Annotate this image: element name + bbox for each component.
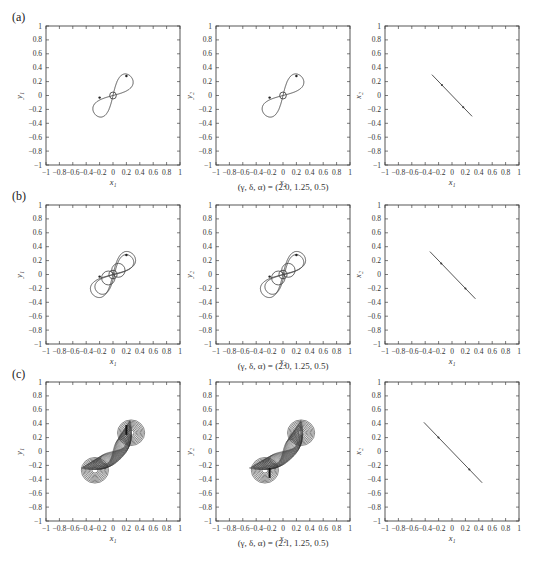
y-tick-label: 0.4 xyxy=(33,63,43,72)
y-tick-label: 0.4 xyxy=(203,63,213,72)
y-tick-label: 0.8 xyxy=(33,35,43,44)
y-tick-label: −0.2 xyxy=(367,461,381,470)
y-tick-label: −0.6 xyxy=(367,133,381,142)
x-tick-label: 0 xyxy=(281,524,285,533)
plot-b-1: −1−1−0.8−0.8−0.6−0.6−0.4−0.4−0.2−0.2000.… xyxy=(14,201,182,367)
y-axis-label: y₁ xyxy=(14,271,24,279)
x-tick-label: 0.2 xyxy=(122,347,132,356)
y-tick-label: −0.6 xyxy=(198,312,212,321)
y-tick-label: −1 xyxy=(34,340,42,349)
y-tick-label: 0.4 xyxy=(372,419,382,428)
y-tick-label: −0.4 xyxy=(28,119,42,128)
x-tick-label: −0.8 xyxy=(392,168,406,177)
y-tick-label: 0.8 xyxy=(203,391,213,400)
y-tick-label: −0.6 xyxy=(198,133,212,142)
y-tick-label: 0.2 xyxy=(203,433,213,442)
x-tick-label: −0.6 xyxy=(66,347,80,356)
x-tick-label: −1 xyxy=(42,347,50,356)
x-tick-label: 0.2 xyxy=(461,347,471,356)
y-tick-label: 0.8 xyxy=(33,391,43,400)
plot-b-2: −1−1−0.8−0.8−0.6−0.6−0.4−0.4−0.2−0.2000.… xyxy=(184,201,352,367)
x-tick-label: 0 xyxy=(111,524,115,533)
x-tick-label: 0.4 xyxy=(474,347,484,356)
x-tick-label: 0.6 xyxy=(149,347,159,356)
x-tick-label: −0.4 xyxy=(79,168,93,177)
x-tick-label: 0.6 xyxy=(488,347,498,356)
figure: (a) (b) (c) (γ, δ, α) = (2.0, 1.25, 0.5)… xyxy=(0,0,538,568)
x-tick-label: 1 xyxy=(517,168,521,177)
x-tick-label: 0.8 xyxy=(162,168,172,177)
x-tick-label: 0.8 xyxy=(332,524,342,533)
y-tick-label: 0.4 xyxy=(203,242,213,251)
x-tick-label: −0.2 xyxy=(263,524,277,533)
y-tick-label: −1 xyxy=(204,161,212,170)
x-tick-label: −0.8 xyxy=(392,347,406,356)
x-tick-label: −1 xyxy=(212,524,220,533)
x-tick-label: 0.4 xyxy=(474,524,484,533)
y-tick-label: 0.6 xyxy=(203,228,213,237)
x-tick-label: −0.6 xyxy=(236,347,250,356)
plot-b-3: −1−1−0.8−0.8−0.6−0.6−0.4−0.4−0.2−0.2000.… xyxy=(353,201,521,367)
x-tick-label: −0.6 xyxy=(405,168,419,177)
y-tick-label: −0.6 xyxy=(28,133,42,142)
y-tick-label: 0 xyxy=(208,91,212,100)
x-tick-label: 0.2 xyxy=(122,524,132,533)
y-tick-label: 0.6 xyxy=(372,405,382,414)
y-tick-label: 0 xyxy=(208,447,212,456)
x-tick-label: 0.6 xyxy=(319,168,329,177)
x-tick-label: 0.6 xyxy=(319,524,329,533)
y-tick-label: 0 xyxy=(377,91,381,100)
x-tick-label: 0 xyxy=(281,168,285,177)
x-tick-label: −0.4 xyxy=(79,524,93,533)
y-tick-label: 0.6 xyxy=(33,49,43,58)
y-tick-label: 0.4 xyxy=(33,242,43,251)
x-tick-label: 0.8 xyxy=(162,524,172,533)
y-tick-label: −0.8 xyxy=(28,326,42,335)
x-tick-label: −0.6 xyxy=(405,524,419,533)
x-tick-label: −0.4 xyxy=(418,524,432,533)
x-tick-label: −0.8 xyxy=(53,168,67,177)
x-axis-label: x₁ xyxy=(109,356,117,366)
plots-canvas: −1−1−0.8−0.8−0.6−0.6−0.4−0.4−0.2−0.2000.… xyxy=(0,0,538,568)
y-tick-label: 0.8 xyxy=(33,214,43,223)
x-tick-label: 0.2 xyxy=(292,524,302,533)
plot-a-2: −1−1−0.8−0.8−0.6−0.6−0.4−0.4−0.2−0.2000.… xyxy=(184,22,352,188)
x-tick-label: 0.6 xyxy=(488,524,498,533)
x-tick-label: −0.8 xyxy=(392,524,406,533)
y-tick-label: 0.2 xyxy=(33,433,43,442)
x-tick-label: −0.2 xyxy=(93,347,107,356)
trajectory xyxy=(251,422,303,470)
x-tick-label: −0.4 xyxy=(79,347,93,356)
y-tick-label: 0.2 xyxy=(203,77,213,86)
x-tick-label: 0.6 xyxy=(149,524,159,533)
x-tick-label: −1 xyxy=(381,524,389,533)
x-tick-label: 0.8 xyxy=(501,168,511,177)
y-tick-label: 1 xyxy=(208,201,212,210)
x-tick-label: −0.2 xyxy=(93,168,107,177)
y-axis-label: y₁ xyxy=(14,92,24,100)
x-tick-label: 1 xyxy=(178,524,182,533)
x-tick-label: −0.6 xyxy=(66,524,80,533)
x-tick-label: 0.4 xyxy=(135,168,145,177)
y-axis-label: y₂ xyxy=(184,92,194,100)
x-tick-label: 0.2 xyxy=(292,347,302,356)
x-axis-label: x₂ xyxy=(279,356,287,366)
y-tick-label: −0.8 xyxy=(198,503,212,512)
y-tick-label: 1 xyxy=(38,22,42,31)
x-tick-label: −1 xyxy=(42,168,50,177)
y-axis-label: y₂ xyxy=(184,271,194,279)
x-axis-label: x₁ xyxy=(448,356,456,366)
y-tick-label: −0.6 xyxy=(367,489,381,498)
y-tick-label: 0.2 xyxy=(33,256,43,265)
y-tick-label: 1 xyxy=(208,22,212,31)
y-tick-label: −0.4 xyxy=(28,298,42,307)
y-tick-label: 0 xyxy=(38,447,42,456)
y-tick-label: −0.8 xyxy=(28,503,42,512)
y-tick-label: 0.8 xyxy=(203,214,213,223)
direction-marker xyxy=(441,84,443,86)
y-tick-label: −0.8 xyxy=(28,147,42,156)
direction-marker xyxy=(462,106,464,108)
y-tick-label: 0.6 xyxy=(372,228,382,237)
x-axis-label: x₁ xyxy=(448,177,456,187)
y-tick-label: −1 xyxy=(204,517,212,526)
